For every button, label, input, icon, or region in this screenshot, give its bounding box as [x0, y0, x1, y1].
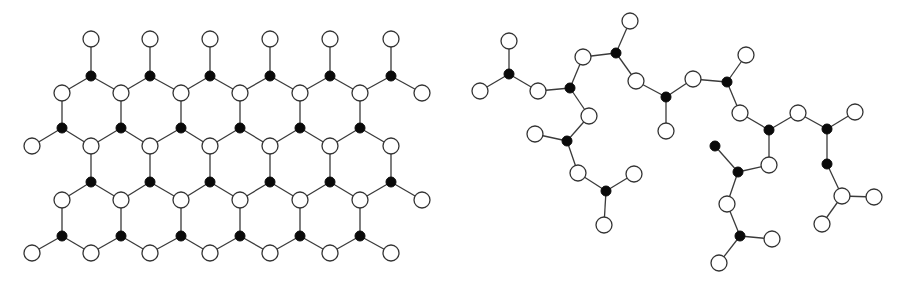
chain-atoms	[472, 13, 882, 271]
filled-atom	[116, 123, 126, 133]
open-atom	[113, 85, 129, 101]
open-atom	[262, 31, 278, 47]
filled-atom	[57, 231, 67, 241]
open-atom	[527, 126, 543, 142]
open-atom	[501, 33, 517, 49]
filled-atom	[355, 231, 365, 241]
open-atom	[173, 192, 189, 208]
open-atom	[352, 192, 368, 208]
open-atom	[24, 138, 40, 154]
open-atom	[472, 83, 488, 99]
filled-atom	[235, 123, 245, 133]
open-atom	[83, 31, 99, 47]
open-atom	[575, 49, 591, 65]
filled-atom	[145, 71, 155, 81]
filled-atom	[265, 71, 275, 81]
filled-atom	[145, 177, 155, 187]
filled-atom	[86, 71, 96, 81]
open-atom	[685, 71, 701, 87]
filled-atom	[86, 177, 96, 187]
molecular-structure-diagram	[0, 0, 897, 289]
filled-atom	[176, 231, 186, 241]
open-atom	[732, 105, 748, 121]
open-atom	[719, 196, 735, 212]
open-atom	[352, 85, 368, 101]
open-atom	[581, 108, 597, 124]
open-atom	[142, 138, 158, 154]
open-atom	[54, 85, 70, 101]
open-atom	[383, 31, 399, 47]
open-atom	[202, 138, 218, 154]
filled-atom	[386, 177, 396, 187]
open-atom	[202, 31, 218, 47]
open-atom	[83, 245, 99, 261]
filled-atom	[57, 123, 67, 133]
open-atom	[622, 13, 638, 29]
filled-atom	[116, 231, 126, 241]
open-atom	[383, 245, 399, 261]
filled-atom	[205, 71, 215, 81]
open-atom	[24, 245, 40, 261]
open-atom	[322, 138, 338, 154]
filled-atom	[565, 83, 575, 93]
filled-atom	[733, 167, 743, 177]
filled-atom	[176, 123, 186, 133]
open-atom	[113, 192, 129, 208]
filled-atom	[735, 231, 745, 241]
filled-atom	[355, 123, 365, 133]
filled-atom	[710, 141, 720, 151]
open-atom	[414, 85, 430, 101]
open-atom	[626, 166, 642, 182]
branched-chain-panel	[472, 13, 882, 271]
filled-atom	[822, 159, 832, 169]
open-atom	[530, 83, 546, 99]
filled-atom	[295, 123, 305, 133]
open-atom	[262, 245, 278, 261]
filled-atom	[601, 186, 611, 196]
open-atom	[142, 31, 158, 47]
open-atom	[790, 105, 806, 121]
filled-atom	[822, 124, 832, 134]
filled-atom	[386, 71, 396, 81]
filled-atom	[504, 69, 514, 79]
open-atom	[570, 165, 586, 181]
open-atom	[232, 85, 248, 101]
hexagonal-lattice-panel	[24, 31, 430, 261]
open-atom	[322, 245, 338, 261]
open-atom	[761, 157, 777, 173]
open-atom	[292, 85, 308, 101]
filled-atom	[235, 231, 245, 241]
filled-atom	[325, 177, 335, 187]
open-atom	[54, 192, 70, 208]
filled-atom	[661, 92, 671, 102]
open-atom	[322, 31, 338, 47]
open-atom	[232, 192, 248, 208]
open-atom	[83, 138, 99, 154]
open-atom	[834, 188, 850, 204]
filled-atom	[611, 48, 621, 58]
open-atom	[658, 123, 674, 139]
filled-atom	[205, 177, 215, 187]
open-atom	[764, 231, 780, 247]
filled-atom	[265, 177, 275, 187]
filled-atom	[562, 136, 572, 146]
open-atom	[596, 217, 612, 233]
open-atom	[292, 192, 308, 208]
open-atom	[866, 189, 882, 205]
open-atom	[173, 85, 189, 101]
open-atom	[628, 73, 644, 89]
open-atom	[262, 138, 278, 154]
open-atom	[738, 47, 754, 63]
open-atom	[814, 216, 830, 232]
filled-atom	[722, 77, 732, 87]
open-atom	[414, 192, 430, 208]
lattice-atoms	[24, 31, 430, 261]
open-atom	[383, 138, 399, 154]
open-atom	[711, 255, 727, 271]
open-atom	[142, 245, 158, 261]
open-atom	[847, 104, 863, 120]
filled-atom	[295, 231, 305, 241]
filled-atom	[325, 71, 335, 81]
filled-atom	[764, 125, 774, 135]
open-atom	[202, 245, 218, 261]
